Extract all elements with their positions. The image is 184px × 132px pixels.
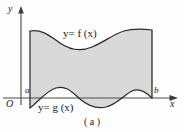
upper-bound-label-b: b (154, 86, 159, 95)
upper-curve-label: y= f (x) (63, 28, 97, 39)
origin-label: O (6, 99, 13, 109)
y-axis-arrow-icon (18, 6, 24, 14)
figure-canvas (0, 0, 184, 132)
lower-bound-label-a: a (25, 86, 30, 95)
x-axis-label: x (170, 99, 174, 109)
y-axis-label: y (8, 4, 12, 14)
figure-caption: ( a ) (0, 116, 184, 127)
lower-curve-label: y= g (x) (38, 102, 74, 113)
shaded-region (30, 29, 152, 108)
area-between-curves-figure: y x O a b y= f (x) y= g (x) ( a ) (0, 0, 184, 132)
